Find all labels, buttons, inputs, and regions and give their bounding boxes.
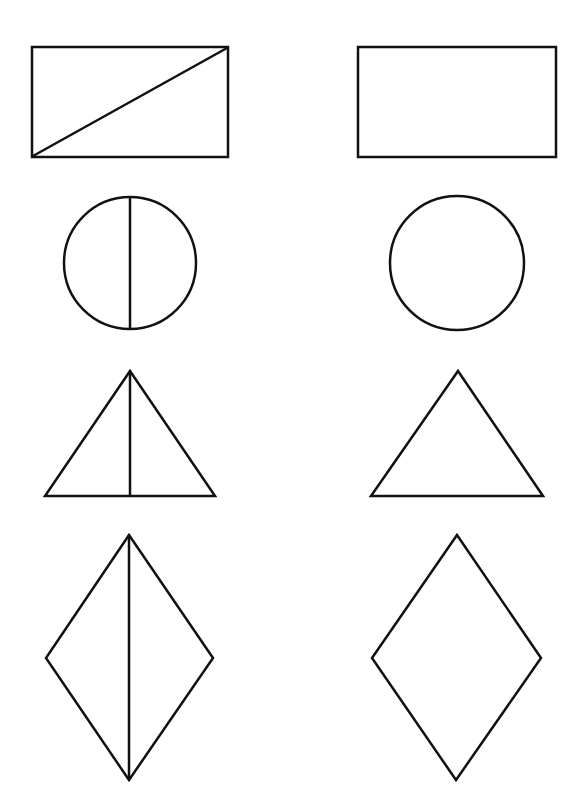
divided-triangle xyxy=(45,371,215,496)
row-triangles xyxy=(45,371,543,496)
row-rectangles xyxy=(32,47,556,157)
whole-rectangle xyxy=(358,47,556,157)
rectangle-diagonal-divider xyxy=(33,48,227,156)
whole-rhombus xyxy=(372,535,541,780)
divided-rectangle xyxy=(32,47,228,157)
whole-circle xyxy=(390,196,524,330)
whole-triangle xyxy=(371,371,543,496)
shapes-worksheet xyxy=(0,0,582,802)
row-circles xyxy=(64,196,524,330)
divided-circle xyxy=(64,197,196,329)
divided-rhombus xyxy=(46,535,213,780)
row-rhombuses xyxy=(46,535,541,780)
